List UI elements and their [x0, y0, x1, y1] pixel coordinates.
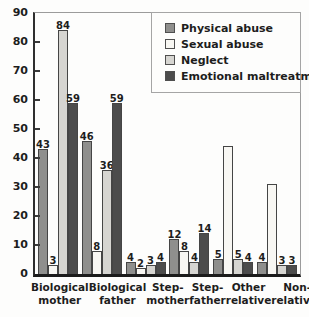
legend-item-sexual-abuse: Sexual abuse [165, 36, 300, 52]
bar-value-label: 84 [56, 20, 70, 31]
bar: 4 [257, 262, 267, 274]
bar-value-label: 4 [127, 252, 134, 263]
bar-value-label: 4 [157, 252, 164, 263]
legend-swatch-emotional-maltreatment [165, 71, 175, 81]
bar-value-label: 14 [197, 223, 211, 234]
x-axis-labels: BiologicalmotherBiologicalfatherStep-mot… [31, 281, 305, 307]
bar: 3 [287, 265, 297, 274]
bar: 4 [156, 262, 166, 274]
bar-value-label: 8 [181, 241, 188, 252]
bar-value-label: 59 [66, 93, 80, 104]
bar: 4 [243, 262, 253, 274]
y-tick-label: 80 [13, 36, 28, 48]
y-tick-mark [35, 99, 40, 101]
x-category-label: Biologicalfather [89, 281, 147, 307]
bar-value-label: 4 [245, 252, 252, 263]
bar-value-label: 4 [259, 252, 266, 263]
bar-value-label: 3 [279, 255, 286, 266]
y-tick-mark [35, 244, 40, 246]
legend-item-neglect: Neglect [165, 52, 300, 68]
y-axis-tick-labels: 0102030405060708090 [0, 12, 28, 277]
legend: Physical abuse Sexual abuse Neglect Emot… [151, 12, 301, 93]
bar: 36 [102, 170, 112, 274]
bar: 4 [189, 262, 199, 274]
bar-value-label: 12 [167, 229, 181, 240]
bar-value-label: 3 [147, 255, 154, 266]
bar-value-label: 46 [80, 131, 94, 142]
bar: 3 [146, 265, 156, 274]
bar-value-label: 59 [110, 93, 124, 104]
x-category-label: Non-relatives [271, 281, 309, 307]
bar-group: 4338459 [36, 13, 80, 274]
bar [223, 146, 233, 274]
bar: 84 [58, 30, 68, 274]
bar: 46 [82, 141, 92, 274]
bar: 8 [92, 251, 102, 274]
y-tick-label: 30 [13, 181, 28, 193]
y-tick-label: 50 [13, 123, 28, 135]
bar-chart-figure: 0102030405060708090 43384594683659423412… [0, 0, 309, 317]
legend-item-physical-abuse: Physical abuse [165, 20, 300, 36]
x-category-label: Biologicalmother [31, 281, 89, 307]
y-tick-label: 40 [13, 152, 28, 164]
bar: 5 [233, 259, 243, 274]
legend-label-physical-abuse: Physical abuse [181, 22, 273, 35]
x-category-label: Step-father [189, 281, 225, 307]
legend-item-emotional-maltreatment: Emotional maltreatment [165, 68, 300, 84]
y-tick-mark [35, 41, 40, 43]
plot-area: 433845946836594234128414554433 Physical … [33, 12, 301, 277]
legend-label-neglect: Neglect [181, 54, 229, 67]
bar: 59 [68, 103, 78, 274]
y-tick-label: 20 [13, 210, 28, 222]
bar-value-label: 3 [289, 255, 296, 266]
bar [267, 184, 277, 274]
bar-value-label: 5 [215, 249, 222, 260]
bar: 12 [169, 239, 179, 274]
x-category-label: Otherrelative [226, 281, 272, 307]
legend-label-emotional-maltreatment: Emotional maltreatment [181, 70, 309, 83]
y-tick-mark [35, 128, 40, 130]
x-category-label: Step-mother [146, 281, 189, 307]
y-tick-label: 90 [13, 7, 28, 19]
y-tick-mark [35, 186, 40, 188]
bar-value-label: 2 [137, 258, 144, 269]
bar: 3 [277, 265, 287, 274]
legend-label-sexual-abuse: Sexual abuse [181, 38, 263, 51]
legend-swatch-neglect [165, 55, 175, 65]
bar-value-label: 3 [49, 255, 56, 266]
bar: 3 [48, 265, 58, 274]
bar: 43 [38, 149, 48, 274]
y-tick-mark [35, 215, 40, 217]
bar: 2 [136, 268, 146, 274]
y-tick-label: 60 [13, 94, 28, 106]
bar-value-label: 4 [191, 252, 198, 263]
y-tick-mark [35, 70, 40, 72]
y-tick-mark [35, 157, 40, 159]
y-tick-label: 10 [13, 239, 28, 251]
bar-value-label: 5 [235, 249, 242, 260]
bar: 4 [126, 262, 136, 274]
bar: 14 [199, 233, 209, 274]
bar: 8 [179, 251, 189, 274]
bar: 59 [112, 103, 122, 274]
bar-value-label: 43 [36, 139, 50, 150]
bar-group: 4683659 [80, 13, 124, 274]
legend-swatch-sexual-abuse [165, 39, 175, 49]
y-tick-label: 70 [13, 65, 28, 77]
bar-value-label: 8 [93, 241, 100, 252]
y-tick-label: 0 [20, 268, 28, 280]
bar: 5 [213, 259, 223, 274]
legend-swatch-physical-abuse [165, 23, 175, 33]
